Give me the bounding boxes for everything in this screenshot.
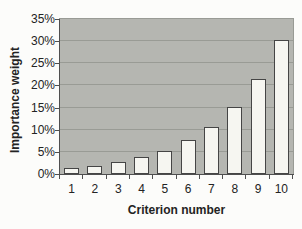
x-tick: [222, 175, 223, 179]
x-tick-label: 2: [83, 182, 107, 197]
x-axis-title: Criterion number: [60, 202, 293, 218]
bar-criterion-3: [111, 162, 126, 174]
y-tick-label: 10%: [13, 122, 55, 138]
y-tick-label: 35%: [13, 11, 55, 27]
bar-criterion-8: [227, 107, 242, 174]
x-axis-line: [55, 174, 294, 175]
x-tick: [245, 175, 246, 179]
x-tick-label: 1: [60, 182, 84, 197]
y-tick-label: 5%: [13, 144, 55, 160]
y-tick: [55, 41, 59, 42]
plot-area: [59, 18, 294, 175]
x-tick: [292, 175, 293, 179]
x-tick: [59, 175, 60, 179]
bar-criterion-9: [251, 79, 266, 174]
x-tick: [82, 175, 83, 179]
x-tick-label: 3: [106, 182, 130, 197]
y-tick: [55, 130, 59, 131]
importance-weight-bar-chart: Importance weight Criterion number 0%5%1…: [0, 0, 302, 229]
x-tick: [199, 175, 200, 179]
gridline-25: [60, 62, 293, 63]
x-tick-label: 10: [269, 182, 293, 197]
x-tick: [129, 175, 130, 179]
y-tick-label: 25%: [13, 55, 55, 71]
x-tick: [176, 175, 177, 179]
y-tick-label: 30%: [13, 33, 55, 49]
y-tick-label: 20%: [13, 77, 55, 93]
y-tick: [55, 63, 59, 64]
y-tick: [55, 152, 59, 153]
x-tick-label: 7: [199, 182, 223, 197]
bar-criterion-10: [274, 40, 289, 174]
x-tick-label: 9: [246, 182, 270, 197]
bar-criterion-4: [134, 157, 149, 174]
y-tick: [55, 85, 59, 86]
x-tick: [106, 175, 107, 179]
x-tick: [152, 175, 153, 179]
bar-criterion-2: [87, 166, 102, 174]
y-tick: [55, 19, 59, 20]
bar-criterion-5: [157, 151, 172, 174]
y-axis-line: [59, 19, 60, 175]
x-tick-label: 4: [130, 182, 154, 197]
x-tick-label: 8: [223, 182, 247, 197]
bar-criterion-7: [204, 127, 219, 174]
bar-criterion-6: [181, 140, 196, 174]
y-tick-label: 0%: [13, 166, 55, 182]
x-tick-label: 6: [176, 182, 200, 197]
gridline-30: [60, 40, 293, 41]
y-tick-label: 15%: [13, 100, 55, 116]
x-tick-label: 5: [153, 182, 177, 197]
x-tick: [269, 175, 270, 179]
y-tick: [55, 108, 59, 109]
